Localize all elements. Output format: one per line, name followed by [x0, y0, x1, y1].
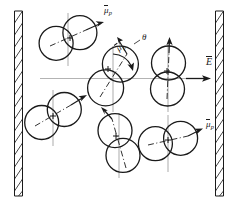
plus-mark — [113, 133, 119, 139]
mu-symbol: μ — [104, 6, 109, 15]
molecule-center — [88, 37, 140, 112]
field-symbol: E — [206, 57, 212, 67]
mu-subscript: p — [109, 9, 112, 16]
figure-canvas — [0, 0, 239, 206]
capacitor-plate-left — [15, 11, 23, 196]
mu-symbol: μ — [206, 120, 211, 129]
capacitor-plate-right — [216, 11, 224, 196]
plus-mark — [164, 68, 170, 74]
mu-subscript: p — [211, 123, 214, 130]
theta-angle-label: θ — [142, 33, 146, 42]
dipole-moment-label-top-left: μp — [104, 6, 112, 15]
dipole-field-figure: μp μp μp θ E — [0, 0, 239, 206]
electric-field-label: E — [206, 57, 212, 67]
molecule-bottom-center — [98, 107, 140, 178]
molecule-top-left — [39, 13, 104, 66]
molecule-left-lower — [25, 90, 87, 146]
theta-leader-line — [134, 40, 140, 44]
molecule-right-middle — [151, 37, 186, 112]
plate-right-hatching — [216, 11, 224, 196]
plate-left-hatching — [15, 11, 23, 196]
dipole-arrowhead — [96, 21, 104, 27]
theta-arc — [113, 54, 132, 66]
dipole-moment-label-bottom-right: μp — [206, 120, 214, 129]
plus-mark — [165, 137, 171, 143]
dipole-arrowhead — [79, 95, 87, 102]
plus-mark — [50, 113, 56, 119]
molecule-bottom-right — [138, 115, 203, 172]
